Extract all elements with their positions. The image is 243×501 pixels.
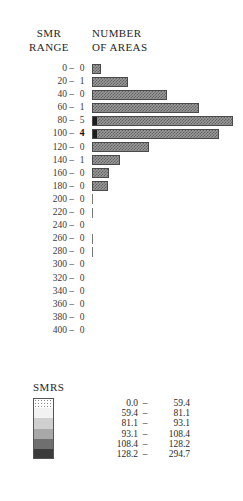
legend-range-dash: – <box>138 429 152 439</box>
histogram-row-count: 0 <box>76 167 88 180</box>
histogram-row-count: 4 <box>76 127 88 140</box>
histogram-bar-wrapper <box>92 90 167 100</box>
histogram-row-label: 360 – <box>18 298 74 311</box>
legend-swatch <box>33 429 54 439</box>
histogram-row-label: 200 – <box>18 193 74 206</box>
legend-swatch-fill <box>34 449 53 458</box>
legend-range-dash: – <box>138 439 152 449</box>
histogram-bar <box>92 142 149 152</box>
histogram-bar <box>92 77 128 87</box>
histogram-row-count: 0 <box>76 298 88 311</box>
histogram-tick-mark <box>92 247 93 257</box>
legend-range-low: 81.1 <box>100 418 138 428</box>
histogram-row: 260 –0 <box>0 232 243 245</box>
histogram-row: 0 –0 <box>0 62 243 75</box>
legend-label: 93.1–108.4 <box>60 429 190 439</box>
histogram-row-label: 0 – <box>18 62 74 75</box>
histogram-row-label: 280 – <box>18 245 74 258</box>
histogram-row: 180 –0 <box>0 180 243 193</box>
histogram-row-count: 1 <box>76 101 88 114</box>
histogram-bar <box>92 64 101 74</box>
legend-range-dash: – <box>138 398 152 408</box>
header-number-of-areas: NUMBER OF AREAS <box>92 26 184 54</box>
histogram-bar-wrapper <box>92 208 93 218</box>
histogram-row-label: 140 – <box>18 154 74 167</box>
histogram-row: 300 –0 <box>0 258 243 271</box>
legend-label: 108.4–128.2 <box>60 439 190 449</box>
histogram-row: 60 –1 <box>0 101 243 114</box>
legend-range-low: 108.4 <box>100 439 138 449</box>
header-number-of-areas-line2: OF AREAS <box>92 40 184 54</box>
histogram-row-label: 60 – <box>18 101 74 114</box>
histogram-tick-mark <box>92 234 93 244</box>
legend-range-high: 108.4 <box>152 429 190 439</box>
legend-range-low: 93.1 <box>100 429 138 439</box>
histogram-row-label: 80 – <box>18 114 74 127</box>
header-number-of-areas-line1: NUMBER <box>92 26 184 40</box>
legend-title: SMRS <box>33 381 64 393</box>
histogram-bar-wrapper <box>92 181 108 191</box>
histogram-row: 40 –0 <box>0 88 243 101</box>
legend-swatch-fill <box>34 418 53 428</box>
histogram-bar-wrapper <box>92 194 93 204</box>
histogram-row-label: 220 – <box>18 206 74 219</box>
legend-swatch <box>33 418 54 428</box>
histogram-bar <box>92 181 108 191</box>
histogram-row: 160 –0 <box>0 167 243 180</box>
legend-swatch-fill <box>34 399 53 408</box>
histogram-row: 340 –0 <box>0 285 243 298</box>
histogram-bar-wrapper <box>92 103 199 113</box>
histogram-row-label: 180 – <box>18 180 74 193</box>
histogram-bar <box>92 103 199 113</box>
legend-range-dash: – <box>138 449 152 459</box>
histogram-row-label: 260 – <box>18 232 74 245</box>
histogram-row-count: 0 <box>76 88 88 101</box>
histogram-row-count: 0 <box>76 258 88 271</box>
histogram-bar-wrapper <box>92 142 149 152</box>
histogram-row-count: 0 <box>76 193 88 206</box>
histogram-row-count: 0 <box>76 206 88 219</box>
histogram-bar-wrapper <box>92 247 93 257</box>
histogram-row-count: 0 <box>76 285 88 298</box>
histogram-row-label: 340 – <box>18 285 74 298</box>
histogram-row-label: 380 – <box>18 311 74 324</box>
histogram-bar-wrapper <box>92 129 219 139</box>
legend-range-dash: – <box>138 418 152 428</box>
histogram-row: 220 –0 <box>0 206 243 219</box>
histogram-bar <box>92 129 219 139</box>
histogram-bar <box>92 116 233 126</box>
legend-swatch <box>33 439 54 449</box>
histogram-row: 400 –0 <box>0 324 243 337</box>
histogram-row: 280 –0 <box>0 245 243 258</box>
histogram-bar-dark-segment <box>93 130 97 138</box>
histogram-row-count: 0 <box>76 219 88 232</box>
histogram-row: 320 –0 <box>0 272 243 285</box>
histogram-row: 200 –0 <box>0 193 243 206</box>
legend-swatch-fill <box>34 408 53 418</box>
histogram-row-count: 0 <box>76 141 88 154</box>
chart-header: SMR RANGE NUMBER OF AREAS <box>0 26 243 60</box>
histogram-row-count: 0 <box>76 232 88 245</box>
histogram-row-label: 300 – <box>18 258 74 271</box>
histogram-row-label: 40 – <box>18 88 74 101</box>
legend-label: 59.4–81.1 <box>60 408 190 418</box>
histogram-row-count: 1 <box>76 75 88 88</box>
histogram-row-label: 320 – <box>18 272 74 285</box>
legend-label: 0.0–59.4 <box>60 398 190 408</box>
legend-range-high: 128.2 <box>152 439 190 449</box>
histogram-row-count: 0 <box>76 311 88 324</box>
histogram-bar-dark-segment <box>93 117 97 125</box>
histogram-row-count: 5 <box>76 114 88 127</box>
histogram-row-count: 0 <box>76 272 88 285</box>
legend-range-low: 128.2 <box>100 449 138 459</box>
histogram-row: 380 –0 <box>0 311 243 324</box>
histogram-row: 120 –0 <box>0 141 243 154</box>
histogram-row: 140 –1 <box>0 154 243 167</box>
legend-range-dash: – <box>138 408 152 418</box>
histogram-row-label: 120 – <box>18 141 74 154</box>
legend-swatch-fill <box>34 439 53 449</box>
histogram-row-label: 400 – <box>18 324 74 337</box>
histogram: 0 –020 –140 –060 –180 –5100 –4120 –0140 … <box>0 62 243 337</box>
legend-range-high: 93.1 <box>152 418 190 428</box>
histogram-bar-wrapper <box>92 168 109 178</box>
